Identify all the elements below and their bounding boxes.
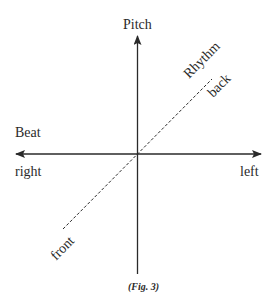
pitch-label: Pitch: [123, 18, 152, 32]
left-label: left: [240, 165, 259, 179]
axis-diagram: Pitch Beat right left Rhythm back front …: [0, 0, 276, 303]
beat-label: Beat: [15, 126, 41, 140]
axes-graphic: [0, 0, 276, 303]
figure-caption: (Fig. 3): [128, 282, 159, 292]
right-label: right: [15, 165, 41, 179]
